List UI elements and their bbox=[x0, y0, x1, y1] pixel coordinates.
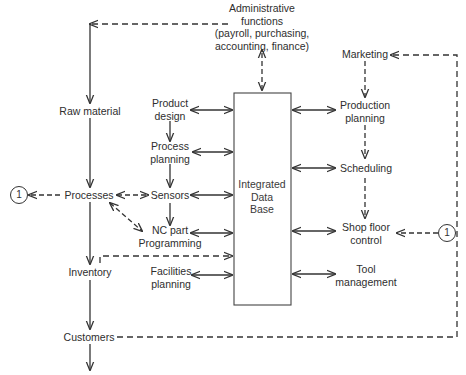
processes-node: Processes bbox=[64, 189, 113, 202]
database-label: Integrated Data Base bbox=[238, 178, 285, 216]
diagram-lines bbox=[0, 0, 466, 375]
production-planning-node: Production planning bbox=[340, 99, 390, 124]
cim-diagram: Integrated Data Base Administrative func… bbox=[0, 0, 466, 375]
nc-part-programming-node: NC part Programming bbox=[138, 224, 201, 249]
product-design-node: Product design bbox=[152, 97, 188, 122]
tool-management-node: Tool management bbox=[335, 263, 396, 288]
raw-material-node: Raw material bbox=[59, 105, 120, 118]
connector-1-right: 1 bbox=[438, 224, 456, 242]
customers-node: Customers bbox=[64, 331, 115, 344]
facilities-planning-node: Facilities planning bbox=[151, 265, 192, 290]
inventory-node: Inventory bbox=[68, 266, 111, 279]
admin-functions-node: Administrative functions (payroll, purch… bbox=[215, 2, 310, 52]
scheduling-node: Scheduling bbox=[340, 162, 392, 175]
connector-1-left: 1 bbox=[10, 186, 28, 204]
marketing-node: Marketing bbox=[342, 48, 388, 61]
shop-floor-control-node: Shop floor control bbox=[342, 221, 390, 246]
process-planning-node: Process planning bbox=[150, 140, 190, 165]
sensors-node: Sensors bbox=[151, 189, 190, 202]
